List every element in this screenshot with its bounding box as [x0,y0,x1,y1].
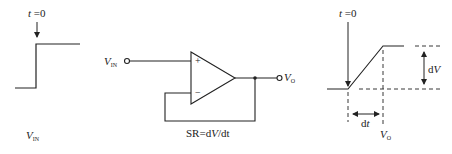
vo-output-label: VO [284,72,295,84]
noninverting-sign: + [195,56,201,66]
left-vin-label: VIN [26,130,39,142]
dv-label: dV [428,64,440,75]
dt-label: dt [361,118,370,129]
output-terminal [277,76,282,81]
output-ramp-waveform [327,46,404,89]
right-vo-label: VO [380,129,391,141]
inverting-sign: − [195,88,201,98]
input-terminal [125,59,130,64]
opamp-circuit [125,52,283,121]
vin-input-label: VIN [104,56,117,68]
slew-rate-label: SR=dV/dt [186,128,230,139]
left-time-label: t =0 [28,8,46,19]
guide-dashes [348,46,440,124]
input-step-waveform [15,44,80,88]
right-time-label: t =0 [339,8,357,19]
feedback-node [253,76,257,80]
